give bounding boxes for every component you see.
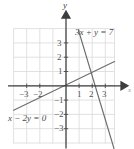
y-tick-label-1: 1 [58,67,63,76]
y-tick-label-2: 2 [57,53,62,62]
y-axis-arrowhead [62,11,70,18]
line-3x-plus-y-equals-7 [78,30,114,149]
x-tick-label-1: 1 [77,90,82,99]
x-tick-label-3: 3 [102,90,107,99]
y-tick-label--2: −2 [54,110,64,119]
equation-label-line1: 3x + y = 7 [75,28,113,37]
x-axis-arrowhead [121,82,128,90]
y-tick-label--3: −3 [54,124,64,133]
y-tick-label--1: −1 [54,96,64,105]
x-axis-label: x [128,87,131,94]
y-axis-label: y [63,1,67,10]
coordinate-plane-svg [0,0,134,149]
equation-label-line2: x − 2y = 0 [8,114,46,123]
x-tick-label-2: 2 [89,90,94,99]
x-tick-label--3: −3 [19,90,29,99]
y-tick-label-3: 3 [57,39,62,48]
graph-figure: y x −3 −2 1 2 3 3 2 1 −1 −2 −3 3x + y = … [0,0,134,149]
x-tick-label--2: −2 [33,90,43,99]
